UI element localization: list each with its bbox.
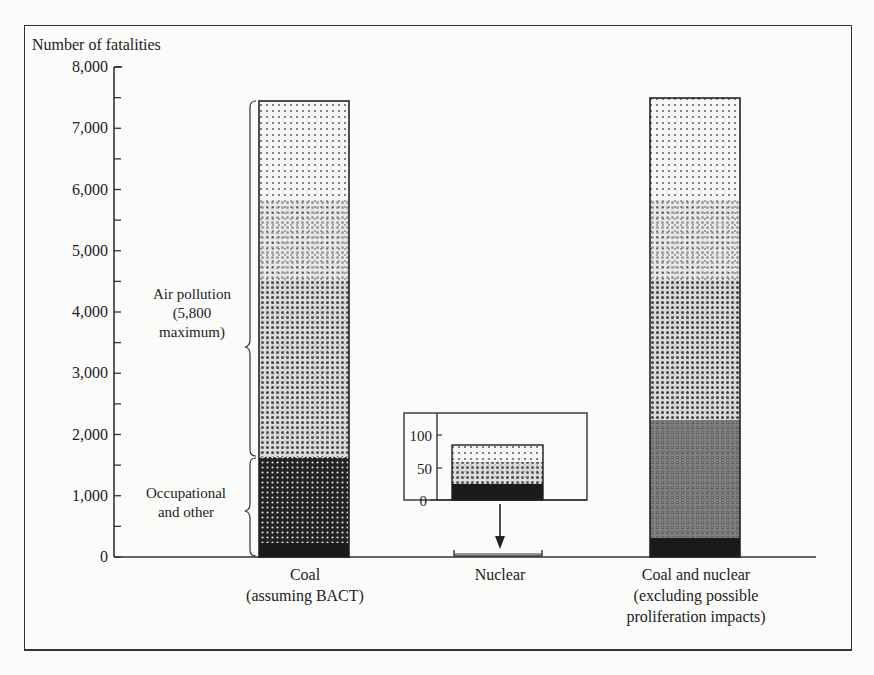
y-tick-label: 2,000 [72, 426, 108, 443]
brace-air-pollution [245, 101, 256, 456]
svg-text:(excluding possible: (excluding possible [634, 587, 759, 605]
bar-nuclear[interactable] [454, 550, 542, 556]
svg-text:proliferation impacts): proliferation impacts) [626, 608, 765, 626]
svg-text:and other: and other [158, 504, 214, 520]
y-axis-label: Number of fatalities [32, 36, 161, 53]
bar-coal-and-nuclear[interactable] [650, 98, 740, 557]
inset-tick-100: 100 [410, 428, 433, 444]
y-tick-label: 1,000 [72, 487, 108, 504]
y-tick-label: 0 [100, 548, 108, 565]
inset-bar[interactable] [452, 445, 543, 500]
y-tick-label: 7,000 [72, 119, 108, 136]
svg-text:maximum): maximum) [159, 324, 225, 341]
svg-text:(5,800: (5,800 [173, 305, 212, 322]
y-tick-label: 4,000 [72, 303, 108, 320]
x-label-nuclear: Nuclear [475, 566, 526, 583]
x-label-coal: Coal (assuming BACT) [246, 566, 364, 605]
bar-coal[interactable] [259, 101, 349, 557]
brace-occupational [245, 458, 256, 556]
svg-text:Nuclear: Nuclear [475, 566, 526, 583]
inset-tick-0: 0 [420, 493, 428, 509]
svg-text:(assuming BACT): (assuming BACT) [246, 587, 364, 605]
inset-nuclear: 100 50 0 [404, 413, 587, 509]
y-tick-label: 6,000 [72, 181, 108, 198]
x-label-coal-and-nuclear: Coal and nuclear (excluding possible pro… [626, 566, 765, 626]
inset-tick-50: 50 [417, 461, 432, 477]
svg-text:Air pollution: Air pollution [153, 286, 231, 302]
y-tick-label: 3,000 [72, 364, 108, 381]
bar-chart: Number of fatalities 01,0002,0003,0004,0… [0, 0, 874, 675]
svg-text:Occupational: Occupational [146, 485, 226, 501]
y-tick-label: 5,000 [72, 242, 108, 259]
annotation-air-pollution: Air pollution (5,800 maximum) [153, 286, 231, 341]
y-tick-label: 8,000 [72, 58, 108, 75]
svg-text:Coal: Coal [290, 566, 321, 583]
svg-text:Coal and nuclear: Coal and nuclear [642, 566, 751, 583]
arrow-down-icon [495, 504, 505, 549]
y-axis: 01,0002,0003,0004,0005,0006,0007,0008,00… [72, 58, 122, 565]
annotation-occupational: Occupational and other [146, 485, 226, 520]
